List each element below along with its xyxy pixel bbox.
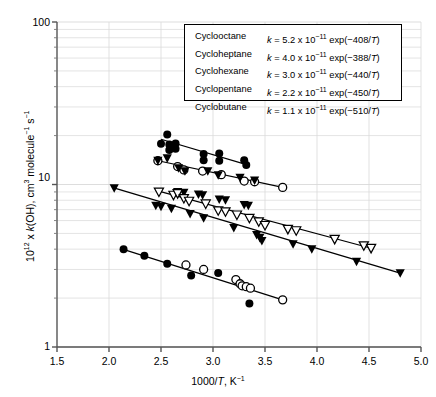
legend-equation-cyclopentane: k = 2.2 x 10−11 exp(−450/T) (267, 83, 380, 101)
data-point-cyclohexane-29 (396, 269, 405, 278)
data-point-cyclopentane-8 (232, 211, 241, 220)
x-tick-label-5-0: 5.0 (401, 355, 436, 367)
legend-row-cycloheptane: Cycloheptanek = 4.0 x 10−11 exp(−388/T) (185, 48, 401, 66)
legend-row-cyclooctane: Cyclooctanek = 5.2 x 10−11 exp(−408/T) (185, 30, 401, 48)
data-point-cyclopentane-7 (221, 208, 230, 217)
data-point-cyclohexane-2 (156, 203, 165, 212)
data-point-cyclobutane-0 (120, 245, 128, 253)
data-point-cyclobutane-13 (279, 296, 287, 304)
legend-equation-cycloheptane: k = 4.0 x 10−11 exp(−388/T) (267, 48, 380, 66)
legend-label-cycloheptane: Cycloheptane (195, 48, 267, 66)
x-axis-title-text: 1000/T, K−1 (191, 375, 245, 387)
data-point-cyclooctane-7 (215, 150, 223, 158)
data-point-cyclohexane-10 (186, 210, 195, 219)
x-tick-label-4-5: 4.5 (349, 355, 389, 367)
y-tick-label-100: 100 (12, 16, 50, 28)
legend-row-cyclopentane: Cyclopentanek = 2.2 x 10−11 exp(−450/T) (185, 83, 401, 101)
legend-equation-cyclobutane: k = 1.1 x 10−11 exp(−510/T) (267, 101, 380, 119)
legend-row-cyclohexane: Cyclohexanek = 3.0 x 10−11 exp(−440/T) (185, 65, 401, 83)
data-point-cyclobutane-5 (200, 265, 208, 273)
x-tick-label-3-0: 3.0 (193, 355, 233, 367)
data-point-cyclohexane-28 (352, 258, 361, 267)
x-tick-label-3-5: 3.5 (245, 355, 285, 367)
data-point-cyclopentane-11 (260, 222, 269, 231)
legend-row-cyclobutane: Cyclobutanek = 1.1 x 10−11 exp(−510/T) (185, 101, 401, 119)
data-point-cyclopentane-4 (184, 197, 193, 206)
legend-equation-cyclooctane: k = 5.2 x 10−11 exp(−408/T) (267, 30, 380, 48)
data-point-cyclopentane-9 (245, 214, 254, 223)
x-tick-label-4-0: 4.0 (297, 355, 337, 367)
data-point-cycloheptane-7 (279, 183, 287, 191)
data-point-cyclohexane-26 (288, 240, 297, 249)
legend-label-cyclopentane: Cyclopentane (195, 83, 267, 101)
data-point-cyclohexane-13 (199, 214, 208, 223)
data-point-cyclopentane-16 (366, 244, 375, 253)
legend-label-cyclooctane: Cyclooctane (195, 30, 267, 48)
x-tick-label-2-0: 2.0 (89, 355, 129, 367)
data-point-cyclobutane-1 (140, 252, 148, 260)
data-point-cyclohexane-7 (167, 205, 176, 214)
x-tick-label-2-5: 2.5 (141, 355, 181, 367)
x-axis-title: 1000/T, K−1 (0, 374, 436, 387)
legend-equation-cyclohexane: k = 3.0 x 10−11 exp(−440/T) (267, 65, 380, 83)
arrhenius-plot-figure: 100 10 1 1.52.02.53.03.54.04.55.0 1000/T… (0, 0, 436, 397)
data-point-cyclooctane-11 (242, 161, 250, 169)
y-axis-title-text: 1012 x k(OH), cm3 molecule−1 s−1 (23, 111, 35, 262)
data-point-cyclobutane-11 (246, 284, 254, 292)
data-point-cyclopentane-13 (292, 227, 301, 236)
data-point-cyclohexane-18 (229, 224, 238, 233)
data-point-cyclooctane-0 (163, 131, 171, 139)
data-point-cyclooctane-1 (157, 140, 165, 148)
legend-label-cyclobutane: Cyclobutane (195, 101, 267, 119)
y-axis-title: 1012 x k(OH), cm3 molecule−1 s−1 (23, 71, 36, 301)
y-tick-label-1: 1 (12, 340, 50, 352)
data-point-cyclobutane-6 (214, 269, 222, 277)
data-point-cyclobutane-4 (187, 272, 195, 280)
data-point-cyclooctane-9 (215, 157, 223, 165)
data-point-cyclobutane-3 (182, 261, 190, 269)
legend-label-cyclohexane: Cyclohexane (195, 65, 267, 83)
legend-box: Cyclooctanek = 5.2 x 10−11 exp(−408/T)Cy… (184, 24, 402, 101)
data-point-cyclobutane-2 (163, 260, 171, 268)
data-point-cyclooctane-8 (200, 156, 208, 164)
data-point-cyclobutane-12 (245, 300, 253, 308)
x-tick-label-1-5: 1.5 (37, 355, 77, 367)
data-point-cyclooctane-5 (165, 146, 173, 154)
